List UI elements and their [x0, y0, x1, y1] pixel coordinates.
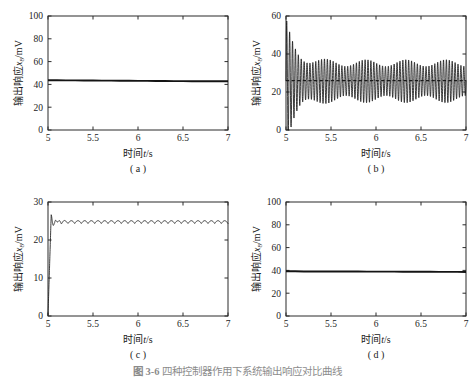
- plot-frame: [48, 202, 228, 316]
- y-tick-label: 60: [272, 243, 282, 253]
- x-tick-label: 5: [46, 133, 51, 143]
- figure-container: 55.566.57020406080100时间t/s( a )输出响应x8/mV…: [0, 0, 475, 380]
- x-tick-label: 5.5: [325, 133, 337, 143]
- y-tick-label: 0: [38, 125, 43, 135]
- x-tick-label: 6.5: [177, 133, 189, 143]
- y-tick-label: 20: [272, 289, 282, 299]
- y-tick-label: 40: [272, 266, 282, 276]
- subplot-c-plot: 55.566.570102030时间t/s( c )输出响应x8/mV: [12, 197, 231, 361]
- x-axis-title: 时间t/s: [361, 333, 391, 345]
- x-tick-label: 6.5: [415, 319, 427, 329]
- subplot-c: 55.566.570102030时间t/s( c )输出响应x8/mV: [0, 186, 237, 372]
- subplot-a-plot: 55.566.57020406080100时间t/s( a )输出响应x8/mV: [12, 11, 231, 175]
- y-tick-label: 0: [276, 125, 281, 135]
- subplot-d: 55.566.57020406080100时间t/s( d )输出响应x8/mV: [238, 186, 475, 372]
- y-axis-title: 输出响应x8/mV: [12, 39, 26, 106]
- subplot-b-canvas: 55.566.570204060时间t/s( b )输出响应x8/mV: [238, 0, 475, 186]
- x-tick-label: 5: [284, 133, 289, 143]
- y-tick-label: 20: [272, 87, 282, 97]
- subplot-d-canvas: 55.566.57020406080100时间t/s( d )输出响应x8/mV: [238, 186, 475, 372]
- y-tick-label: 0: [276, 311, 281, 321]
- x-tick-label: 5.5: [87, 133, 99, 143]
- y-tick-label: 100: [267, 197, 282, 207]
- x-tick-label: 6: [136, 319, 141, 329]
- x-tick-label: 5: [46, 319, 51, 329]
- panel-tag: ( a ): [130, 163, 146, 175]
- y-tick-label: 40: [272, 49, 282, 59]
- x-tick-label: 7: [226, 319, 231, 329]
- x-axis-title: 时间t/s: [361, 147, 391, 159]
- y-tick-label: 100: [29, 11, 44, 21]
- x-tick-label: 6.5: [415, 133, 427, 143]
- y-tick-label: 80: [34, 34, 44, 44]
- svg-text:输出响应x8/mV: 输出响应x8/mV: [250, 225, 264, 292]
- y-axis-title: 输出响应x8/mV: [12, 225, 26, 292]
- data-curve: [48, 80, 228, 81]
- x-tick-label: 6: [374, 319, 379, 329]
- subplot-c-canvas: 55.566.570102030时间t/s( c )输出响应x8/mV: [0, 186, 237, 372]
- x-tick-label: 5: [284, 319, 289, 329]
- plot-frame: [286, 202, 466, 316]
- y-tick-label: 60: [272, 11, 282, 21]
- x-tick-label: 6: [136, 133, 141, 143]
- x-tick-label: 7: [464, 319, 469, 329]
- svg-text:输出响应x8/mV: 输出响应x8/mV: [250, 39, 264, 106]
- figure-caption: 图 3-6 四种控制器作用下系统输出响应对比曲线: [0, 363, 475, 380]
- x-tick-label: 6: [374, 133, 379, 143]
- panel-tag: ( d ): [368, 349, 385, 361]
- y-tick-label: 80: [272, 220, 282, 230]
- x-tick-label: 7: [464, 133, 469, 143]
- x-tick-label: 7: [226, 133, 231, 143]
- subplot-b-plot: 55.566.570204060时间t/s( b )输出响应x8/mV: [250, 11, 469, 175]
- caption-text: 四种控制器作用下系统输出响应对比曲线: [162, 366, 342, 377]
- y-tick-label: 10: [34, 273, 44, 283]
- y-tick-label: 20: [34, 235, 44, 245]
- y-tick-label: 0: [38, 311, 43, 321]
- svg-text:输出响应x8/mV: 输出响应x8/mV: [12, 225, 26, 292]
- y-axis-title: 输出响应x8/mV: [250, 225, 264, 292]
- caption-number: 图 3-6: [133, 366, 160, 377]
- x-tick-label: 5.5: [325, 319, 337, 329]
- x-axis-title: 时间t/s: [123, 333, 153, 345]
- data-curve: [286, 271, 466, 272]
- x-axis-title: 时间t/s: [123, 147, 153, 159]
- data-curve: [286, 21, 466, 130]
- subplot-a: 55.566.57020406080100时间t/s( a )输出响应x8/mV: [0, 0, 237, 186]
- y-axis-title: 输出响应x8/mV: [250, 39, 264, 106]
- subplot-d-plot: 55.566.57020406080100时间t/s( d )输出响应x8/mV: [250, 197, 469, 361]
- y-tick-label: 30: [34, 197, 44, 207]
- x-tick-label: 6.5: [177, 319, 189, 329]
- plot-frame: [48, 16, 228, 130]
- subplot-a-canvas: 55.566.57020406080100时间t/s( a )输出响应x8/mV: [0, 0, 237, 186]
- y-tick-label: 60: [34, 57, 44, 67]
- y-tick-label: 40: [34, 80, 44, 90]
- data-curve: [48, 215, 228, 315]
- subplot-b: 55.566.570204060时间t/s( b )输出响应x8/mV: [238, 0, 475, 186]
- y-tick-label: 20: [34, 103, 44, 113]
- svg-text:输出响应x8/mV: 输出响应x8/mV: [12, 39, 26, 106]
- panel-tag: ( c ): [130, 349, 146, 361]
- panel-tag: ( b ): [368, 163, 385, 175]
- x-tick-label: 5.5: [87, 319, 99, 329]
